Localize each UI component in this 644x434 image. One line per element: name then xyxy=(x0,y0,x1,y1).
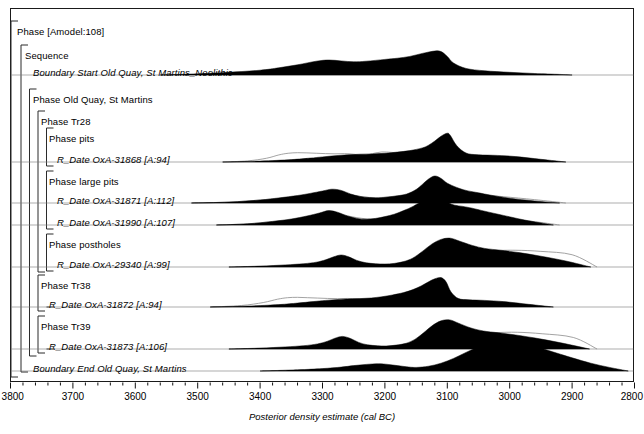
row-label-phase-pits: Phase pits xyxy=(49,134,94,144)
row-label-phase-tr39: Phase Tr39 xyxy=(41,322,91,332)
row-label-oxa-31871: R_Date OxA-31871 [A:112] xyxy=(57,196,174,206)
row-label-oxa-31872: R_Date OxA-31872 [A:94] xyxy=(49,300,162,310)
row-label-oxa-29340: R_Date OxA-29340 [A:99] xyxy=(57,260,170,270)
axis-tick-label-2900: 2900 xyxy=(561,391,583,402)
posterior-fill xyxy=(223,133,566,162)
row-label-boundary-end: Boundary End Old Quay, St Martins xyxy=(33,364,187,374)
posterior-fill xyxy=(229,320,590,349)
posterior-fill xyxy=(229,238,591,267)
row-label-phase-postholes: Phase postholes xyxy=(49,240,121,250)
axis-tick-label-3100: 3100 xyxy=(436,391,458,402)
axis-tick-label-3200: 3200 xyxy=(374,391,396,402)
row-label-oxa-31868: R_Date OxA-31868 [A:94] xyxy=(57,155,170,165)
bracket-depth-2 xyxy=(30,89,37,356)
axis-tick-label-3400: 3400 xyxy=(249,391,271,402)
axis-tick-label-3500: 3500 xyxy=(187,391,209,402)
row-label-phase-tr28: Phase Tr28 xyxy=(41,117,91,127)
bracket-depth-1 xyxy=(21,45,28,372)
axis-title: Posterior density estimate (cal BC) xyxy=(0,411,644,422)
axis-tick-label-3000: 3000 xyxy=(499,391,521,402)
oxcal-plot: Phase [Amodel:108]SequenceBoundary Start… xyxy=(0,0,644,434)
axis-tick-label-3800: 3800 xyxy=(2,391,24,402)
axis-tick-label-3600: 3600 xyxy=(124,391,146,402)
axis-tick-label-2800: 2800 xyxy=(621,391,643,402)
axis-tick-label-3700: 3700 xyxy=(62,391,84,402)
axis-tick-label-3300: 3300 xyxy=(311,391,333,402)
row-label-oxa-31873: R_Date OxA-31873 [A:106] xyxy=(49,342,167,352)
row-label-boundary-start: Boundary Start Old Quay, St Martins_Neol… xyxy=(33,68,233,78)
row-label-phase-old-quay: Phase Old Quay, St Martins xyxy=(33,95,153,105)
x-axis xyxy=(11,383,635,389)
bracket-depth-0 xyxy=(11,21,18,377)
bracket-depth-3 xyxy=(38,111,45,272)
row-label-phase-amodel: Phase [Amodel:108] xyxy=(17,27,104,37)
row-label-phase-tr38: Phase Tr38 xyxy=(41,281,91,291)
row-label-sequence: Sequence xyxy=(25,51,69,61)
row-label-oxa-31990: R_Date OxA-31990 [A:107] xyxy=(57,218,175,228)
row-label-phase-large-pits: Phase large pits xyxy=(49,177,119,187)
posterior-fill xyxy=(191,176,559,203)
